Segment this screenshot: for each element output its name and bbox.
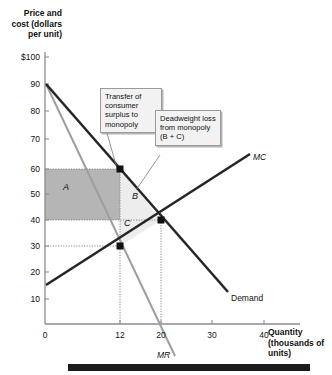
y-tick-label-100: $100: [2, 52, 40, 62]
shaded-region-a: [45, 169, 120, 220]
x-tick-label-12: 12: [109, 330, 131, 340]
chart-canvas: [0, 0, 332, 375]
y-tick-label-30: 30: [2, 241, 40, 251]
curve-label-mr: MR: [157, 350, 170, 360]
marker-monopoly-price: [117, 166, 124, 173]
callout-dwl-leader: [136, 155, 160, 190]
y-tick-label-10: 10: [2, 294, 40, 304]
curve-label-demand: Demand: [231, 293, 263, 303]
y-tick-label-60: 60: [2, 164, 40, 174]
area-label-a: A: [63, 182, 69, 192]
y-tick-label-20: 20: [2, 267, 40, 277]
x-tick-label-20: 20: [150, 330, 172, 340]
callout-transfer-leader: [107, 133, 118, 172]
y-tick-label-50: 50: [2, 189, 40, 199]
y-tick-label-90: 90: [2, 79, 40, 89]
monopoly-deadweight-loss-chart: Price and cost (dollars per unit) Quanti…: [0, 0, 332, 375]
area-label-b: B: [132, 191, 138, 201]
bottom-rule-bar: [68, 364, 310, 371]
x-tick-label-0: 0: [34, 330, 56, 340]
callout-transfer-of-consumer-surplus: Transfer of consumer surplus to monopoly: [100, 88, 162, 133]
marker-competitive-equilibrium: [158, 217, 165, 224]
area-label-c: C: [124, 218, 131, 228]
marker-marginal-cost-at-q12: [117, 243, 124, 250]
curve-label-mc: MC: [253, 152, 266, 162]
y-tick-label-70: 70: [2, 134, 40, 144]
x-tick-label-40: 40: [253, 330, 275, 340]
y-tick-label-40: 40: [2, 215, 40, 225]
x-tick-label-30: 30: [201, 330, 223, 340]
x-axis-title: Quantity (thousands of units): [268, 327, 328, 359]
y-tick-label-80: 80: [2, 106, 40, 116]
callout-deadweight-loss: Deadweight loss from monopoly (B + C): [155, 110, 221, 146]
y-axis-title: Price and cost (dollars per unit): [6, 8, 62, 40]
